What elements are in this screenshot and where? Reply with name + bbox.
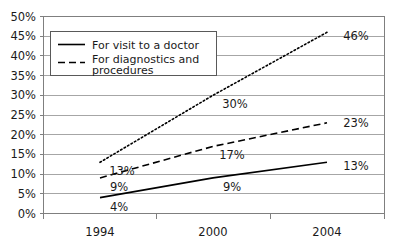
data-label: 17% (219, 148, 245, 162)
y-tick-label: 50% (10, 10, 36, 24)
y-tick-label: 35% (10, 69, 36, 83)
chart-canvas: 0% 5% 10% 15% 20% 25% 30% 35% 40% 45% 50… (0, 0, 394, 249)
legend-label-1-line2: procedures (92, 64, 154, 77)
y-tick-label: 15% (10, 147, 36, 161)
legend-label-0: For visit to a doctor (92, 39, 199, 52)
x-tick-label: 2004 (312, 225, 341, 239)
data-labels-solid: 4% 9% 13% (110, 159, 369, 214)
x-tick-label: 1994 (85, 225, 114, 239)
x-axis-tick-labels: 1994 2000 2004 (85, 225, 341, 239)
data-label: 9% (110, 180, 128, 194)
y-tick-label: 20% (10, 128, 36, 142)
y-tick-label: 10% (10, 167, 36, 181)
data-label: 30% (222, 97, 248, 111)
y-tick-marks (40, 17, 44, 214)
y-tick-label: 40% (10, 49, 36, 63)
data-label: 46% (343, 29, 369, 43)
y-tick-label: 45% (10, 29, 36, 43)
y-tick-label: 25% (10, 108, 36, 122)
data-label: 9% (223, 180, 241, 194)
y-tick-label: 0% (18, 207, 36, 221)
data-label: 23% (343, 116, 369, 130)
x-tick-label: 2000 (198, 225, 227, 239)
x-tick-marks (44, 214, 385, 219)
chart-legend: For visit to a doctor For diagnostics an… (51, 32, 217, 77)
data-label: 13% (109, 164, 135, 178)
y-tick-label: 5% (18, 187, 36, 201)
data-label: 13% (343, 159, 369, 173)
line-chart: 0% 5% 10% 15% 20% 25% 30% 35% 40% 45% 50… (0, 0, 394, 249)
y-axis-tick-labels: 0% 5% 10% 15% 20% 25% 30% 35% 40% 45% 50… (10, 10, 36, 221)
y-tick-label: 30% (10, 88, 36, 102)
data-label: 4% (110, 200, 128, 214)
